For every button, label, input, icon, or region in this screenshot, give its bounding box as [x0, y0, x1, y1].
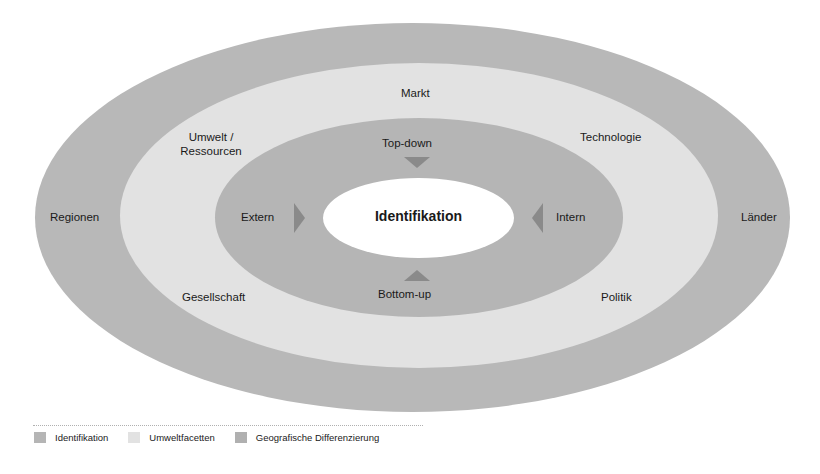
legend-divider: [33, 425, 423, 426]
arrow-up-icon: [404, 270, 430, 281]
legend-swatch-icon: [128, 432, 140, 443]
label-technologie: Technologie: [580, 130, 641, 144]
arrow-left-icon: [532, 203, 543, 233]
arrow-down-icon: [404, 157, 430, 168]
label-umwelt-ressourcen: Umwelt / Ressourcen: [170, 130, 252, 158]
label-gesellschaft: Gesellschaft: [182, 290, 245, 304]
label-laender: Länder: [741, 210, 777, 224]
center-label: Identifikation: [323, 208, 514, 224]
legend: Identifikation Umweltfacetten Geografisc…: [34, 432, 399, 443]
arrow-right-icon: [294, 203, 305, 233]
label-markt: Markt: [401, 86, 430, 100]
legend-item-identifikation: Identifikation: [34, 432, 108, 443]
label-intern: Intern: [556, 210, 585, 224]
label-regionen: Regionen: [50, 210, 99, 224]
label-top-down: Top-down: [382, 136, 432, 150]
legend-item-umweltfacetten: Umweltfacetten: [128, 432, 214, 443]
legend-swatch-icon: [34, 432, 46, 443]
label-extern: Extern: [241, 210, 274, 224]
legend-swatch-icon: [235, 432, 247, 443]
label-bottom-up: Bottom-up: [378, 287, 431, 301]
legend-item-geografische-differenzierung: Geografische Differenzierung: [235, 432, 379, 443]
label-politik: Politik: [601, 290, 632, 304]
